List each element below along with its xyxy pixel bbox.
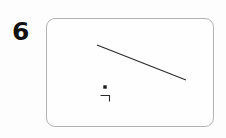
figure-number-label: 6 <box>12 18 38 46</box>
figure-root: 6 <box>0 0 226 138</box>
diagram-panel-frame <box>46 18 214 127</box>
